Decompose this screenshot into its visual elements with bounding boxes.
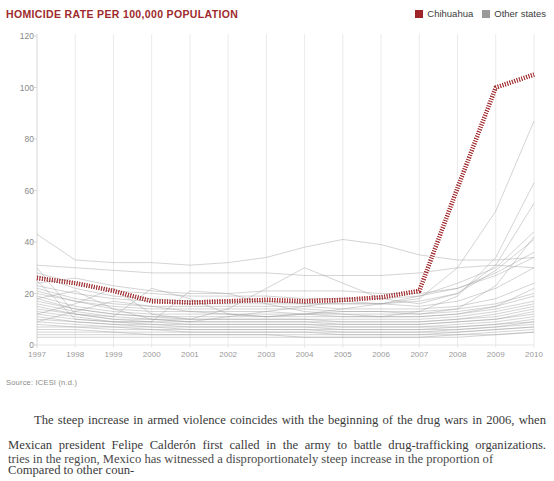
x-axis-tick-label: 2005 [334, 350, 352, 359]
x-axis-labels: 1997199819992000200120022003200420052006… [37, 350, 534, 366]
chart-series-lines [37, 121, 534, 337]
legend-swatch-icon [415, 10, 423, 18]
figure-header: HOMICIDE RATE PER 100,000 POPULATION Chi… [6, 8, 548, 24]
x-axis-tick-label: 2004 [296, 350, 314, 359]
x-axis-tick-label: 2001 [181, 350, 199, 359]
x-axis-tick-label: 2002 [219, 350, 237, 359]
x-axis-tick-label: 1998 [66, 350, 84, 359]
line-chart-svg [0, 28, 554, 348]
chart-legend: Chihuahua Other states [415, 8, 546, 19]
legend-label: Other states [494, 8, 546, 19]
x-axis-tick-label: 2009 [487, 350, 505, 359]
clipped-top-text [8, 0, 548, 4]
x-axis-tick-label: 2008 [449, 350, 467, 359]
legend-swatch-icon [482, 10, 490, 18]
legend-item-other-states[interactable]: Other states [482, 8, 546, 19]
legend-label: Chihuahua [427, 8, 473, 19]
x-axis-tick-label: 2010 [525, 350, 543, 359]
x-axis-tick-label: 1999 [105, 350, 123, 359]
chart-plot-area: 020406080100120 199719981999200020012002… [0, 28, 554, 358]
legend-item-chihuahua[interactable]: Chihuahua [415, 8, 473, 19]
body-paragraph: The steep increase in armed violence coi… [8, 408, 546, 481]
page-title: HOMICIDE RATE PER 100,000 POPULATION [6, 8, 238, 20]
x-axis-tick-label: 2000 [143, 350, 161, 359]
x-axis-tick-label: 2003 [257, 350, 275, 359]
chihuahua-series-line [37, 75, 534, 303]
x-axis-tick-label: 2006 [372, 350, 390, 359]
x-axis-tick-label: 2007 [410, 350, 428, 359]
x-axis-tick-label: 1997 [28, 350, 46, 359]
clipped-body-line: tries in the region, Mexico has witnesse… [8, 452, 546, 466]
source-note: Source: ICESI (n.d.) [6, 378, 77, 387]
paragraph-text: The steep increase in armed violence coi… [8, 408, 546, 481]
